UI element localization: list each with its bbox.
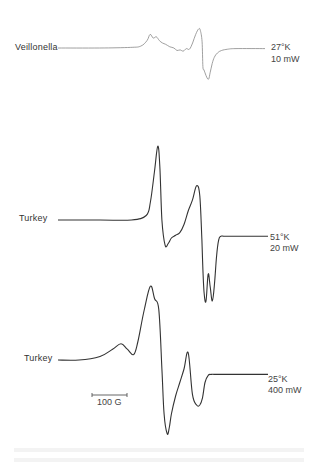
spectra-traces <box>58 28 268 434</box>
spectrum-trace-3 <box>58 286 268 434</box>
trace3-power: 400 mW <box>268 385 302 396</box>
trace1-power: 10 mW <box>271 54 300 65</box>
scale-bar-label: 100 G <box>97 397 122 407</box>
trace2-temperature: 51°K <box>270 232 290 243</box>
trace-label-turkey-1: Turkey <box>19 213 47 224</box>
spectrum-trace-2 <box>58 146 268 302</box>
spectrum-trace-1 <box>58 28 265 79</box>
trace-label-turkey-2: Turkey <box>24 353 52 364</box>
bleed-through-text <box>14 458 304 462</box>
trace2-power: 20 mW <box>270 243 299 254</box>
trace3-temperature: 25°K <box>268 374 288 385</box>
trace1-temperature: 27°K <box>271 42 291 53</box>
trace-label-veillonella: Veillonella <box>15 42 58 53</box>
bleed-through-text <box>14 448 304 452</box>
